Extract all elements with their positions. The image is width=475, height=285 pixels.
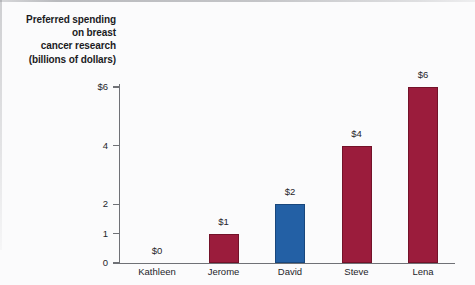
y-axis-tick-label: 4 — [66, 141, 108, 151]
x-axis-label-lena: Lena — [385, 267, 461, 277]
y-axis-tick-mark — [113, 86, 119, 87]
x-axis-label-steve: Steve — [319, 267, 395, 277]
y-axis-tick-mark — [113, 233, 119, 234]
bar-lena — [408, 87, 438, 263]
bar-jerome — [209, 234, 239, 263]
y-axis-tick-mark — [113, 204, 119, 205]
bar-value-label-david: $2 — [263, 187, 317, 197]
plot-area: 0124$6 $0Kathleen$1Jerome$2David$4Steve$… — [0, 0, 475, 285]
y-axis-tick-label: 0 — [66, 258, 108, 268]
y-axis-tick-mark — [113, 145, 119, 146]
x-axis-label-jerome: Jerome — [186, 267, 262, 277]
y-axis-line — [119, 84, 120, 264]
bar-david — [275, 204, 305, 263]
x-axis-line — [119, 263, 455, 264]
y-axis-tick-mark — [113, 262, 119, 263]
y-axis-tick-label: 1 — [66, 229, 108, 239]
bar-value-label-jerome: $1 — [197, 217, 251, 227]
x-axis-label-kathleen: Kathleen — [119, 267, 195, 277]
x-axis-label-david: David — [252, 267, 328, 277]
y-axis-tick-label: 2 — [66, 199, 108, 209]
bar-value-label-kathleen: $0 — [130, 246, 184, 256]
y-axis-tick-label: $6 — [66, 82, 108, 92]
bar-value-label-steve: $4 — [330, 129, 384, 139]
bar-value-label-lena: $6 — [396, 70, 450, 80]
chart-figure: Preferred spending on breast cancer rese… — [0, 0, 475, 285]
bar-steve — [342, 146, 372, 263]
